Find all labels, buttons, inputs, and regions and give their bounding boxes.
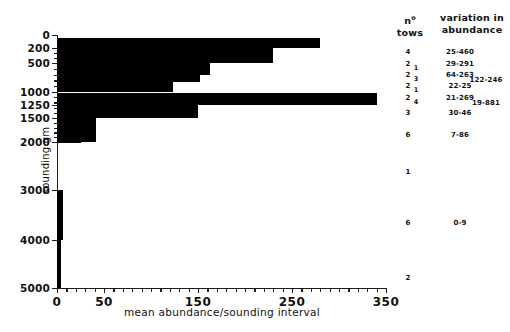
x-tick-180 <box>226 288 227 292</box>
y-tick-minor-1200 <box>54 102 57 103</box>
cell-variation-6: 7-86 <box>436 131 484 139</box>
bar-0-200 <box>57 38 320 48</box>
x-tick-230 <box>273 288 274 292</box>
y-tick-500 <box>52 63 57 64</box>
bar-500-700 <box>57 63 210 75</box>
bar-4000-5000 <box>57 240 61 288</box>
y-tick-1500 <box>52 118 57 119</box>
y-tick-label-5000: 5000 <box>20 282 50 294</box>
cell-tows-8: 6 <box>396 219 420 227</box>
x-tick-0 <box>57 288 58 293</box>
x-tick-290 <box>330 288 331 292</box>
tows-header-word: tows <box>397 27 423 38</box>
cell-variation-1: 29-291 <box>436 60 484 68</box>
y-tick-label-4000: 4000 <box>20 234 50 246</box>
variation-header-line2: abundance <box>442 24 503 35</box>
y-tick-minor-400 <box>54 58 57 59</box>
y-tick-2000 <box>52 142 57 143</box>
figure-root: 02005001000125015002000300040005000 0501… <box>0 0 510 332</box>
y-tick-minor-900 <box>54 86 57 87</box>
y-tick-minor-1400 <box>54 113 57 114</box>
x-tick-50 <box>104 288 105 293</box>
x-tick-200 <box>245 288 246 292</box>
cell-subtows-3: 1 <box>409 86 423 94</box>
y-tick-label-1250: 1250 <box>20 99 50 111</box>
y-tick-label-500: 500 <box>27 57 50 69</box>
y-tick-0 <box>52 35 57 36</box>
x-tick-300 <box>339 288 340 292</box>
bar-200-500 <box>57 48 273 63</box>
x-tick-250 <box>292 288 293 293</box>
x-tick-270 <box>311 288 312 292</box>
cell-variation-0: 25-460 <box>436 48 484 56</box>
y-tick-1000 <box>52 92 57 93</box>
y-tick-minor-800 <box>54 80 57 81</box>
x-tick-240 <box>283 288 284 292</box>
x-tick-80 <box>132 288 133 292</box>
y-tick-minor-1100 <box>54 97 57 98</box>
x-tick-330 <box>367 288 368 292</box>
bar-1250-1500 <box>57 105 198 118</box>
x-tick-340 <box>377 288 378 292</box>
y-tick-minor-600 <box>54 69 57 70</box>
x-tick-160 <box>207 288 208 292</box>
y-tick-label-200: 200 <box>27 42 50 54</box>
x-tick-30 <box>85 288 86 292</box>
x-tick-20 <box>76 288 77 292</box>
x-tick-190 <box>236 288 237 292</box>
x-tick-220 <box>264 288 265 292</box>
bar-800-1000 <box>57 82 173 92</box>
x-tick-90 <box>142 288 143 292</box>
x-tick-150 <box>198 288 199 293</box>
x-tick-110 <box>160 288 161 292</box>
cell-tows-0: 4 <box>396 48 420 56</box>
y-tick-label-1500: 1500 <box>20 112 50 124</box>
y-tick-200 <box>52 48 57 49</box>
bar-1000-1250 <box>57 93 377 105</box>
x-tick-120 <box>170 288 171 292</box>
x-tick-320 <box>358 288 359 292</box>
y-axis-title: sounding gm <box>40 126 51 193</box>
cell-tows-9: 2 <box>396 274 420 282</box>
x-tick-60 <box>113 288 114 292</box>
cell-tows-5: 3 <box>396 109 420 117</box>
cell-tows-7: 1 <box>396 168 420 176</box>
variation-header-line1: variation in <box>440 12 504 23</box>
x-tick-170 <box>217 288 218 292</box>
x-tick-40 <box>95 288 96 292</box>
y-tick-1250 <box>52 105 57 106</box>
x-tick-10 <box>66 288 67 292</box>
y-tick-minor-300 <box>54 53 57 54</box>
bar-2000-3000 <box>57 142 81 143</box>
x-axis-title: mean abundance/sounding interval <box>57 306 387 318</box>
column-header-tows: no tows <box>392 12 428 39</box>
tows-header-superscript: o <box>411 14 416 22</box>
cell-variation2-4: 19-881 <box>464 99 508 107</box>
bar-700-800 <box>57 75 200 82</box>
y-tick-minor-1900 <box>54 137 57 138</box>
cell-variation-8: 0-9 <box>436 219 484 227</box>
bar-1500-2000 <box>57 118 96 142</box>
x-tick-210 <box>254 288 255 292</box>
y-tick-minor-1300 <box>54 108 57 109</box>
x-tick-310 <box>348 288 349 292</box>
x-tick-350 <box>386 288 387 293</box>
y-tick-minor-700 <box>54 75 57 76</box>
y-tick-3000 <box>52 190 57 191</box>
y-tick-label-1000: 1000 <box>20 86 50 98</box>
column-header-variation: variation in abundance <box>434 12 510 36</box>
y-tick-minor-1700 <box>54 128 57 129</box>
x-tick-100 <box>151 288 152 292</box>
y-tick-minor-1800 <box>54 132 57 133</box>
cell-tows-6: 6 <box>396 131 420 139</box>
cell-variation-5: 30-46 <box>436 109 484 117</box>
y-tick-minor-1600 <box>54 123 57 124</box>
side-table: no tows variation in abundance 425-46021… <box>392 12 510 302</box>
x-tick-130 <box>179 288 180 292</box>
bar-3000-4000 <box>57 190 63 240</box>
y-tick-4000 <box>52 240 57 241</box>
x-tick-280 <box>320 288 321 292</box>
cell-variation-3: 22-25 <box>436 82 484 90</box>
y-tick-label-0: 0 <box>42 29 50 41</box>
x-tick-260 <box>301 288 302 292</box>
